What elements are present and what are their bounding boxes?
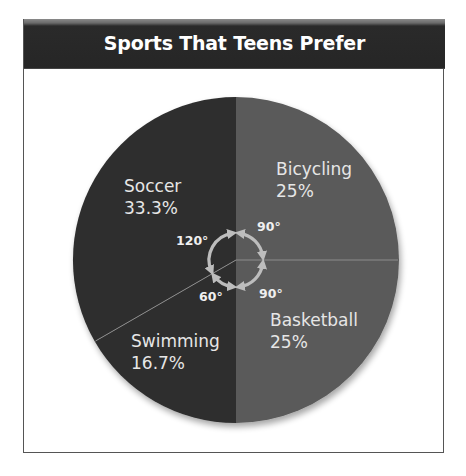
slice-percent-swimming: 16.7% [131,353,185,373]
slice-label-swimming: Swimming [131,331,220,351]
slice-label-soccer: Soccer [124,176,181,196]
slice-label-bicycling: Bicycling [276,159,352,179]
angle-label-basketball: 90° [259,286,283,301]
slice-percent-bicycling: 25% [276,181,314,201]
slice-percent-basketball: 25% [270,332,308,352]
angle-label-soccer: 120° [176,233,208,248]
pie-chart: Bicycling 25% Soccer 33.3% Basketball 25… [0,0,466,476]
slice-basketball [236,260,399,423]
slice-percent-soccer: 33.3% [124,198,178,218]
angle-label-bicycling: 90° [257,219,281,234]
slice-label-basketball: Basketball [270,310,358,330]
angle-label-swimming: 60° [199,289,223,304]
